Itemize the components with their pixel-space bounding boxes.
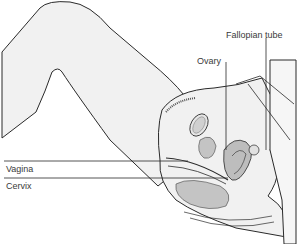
label-fallopian-tube: Fallopian tube <box>226 30 283 40</box>
label-ovary: Ovary <box>197 56 221 66</box>
ovary <box>249 145 259 155</box>
thigh-outline <box>2 2 184 186</box>
label-cervix: Cervix <box>6 181 32 191</box>
label-vagina: Vagina <box>6 164 33 174</box>
